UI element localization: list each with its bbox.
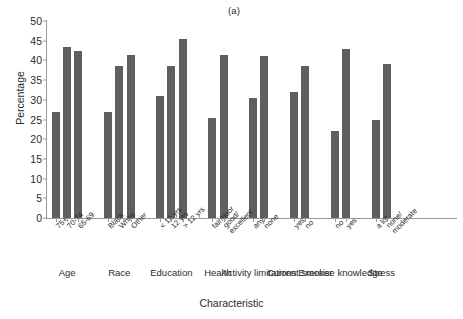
bar xyxy=(220,55,228,219)
y-axis-tick-label: 25 xyxy=(7,114,47,126)
bar xyxy=(290,92,298,218)
y-axis-tick-mark xyxy=(43,99,47,100)
x-axis-title: Characteristic xyxy=(0,297,463,309)
plot-area: 05101520253035404550 xyxy=(47,21,456,218)
bar xyxy=(179,39,187,218)
bar xyxy=(115,66,123,218)
y-axis-tick-mark xyxy=(43,178,47,179)
y-axis-tick-mark xyxy=(43,158,47,159)
bar xyxy=(127,55,135,219)
bar xyxy=(104,112,112,218)
x-axis-group-label: Stress xyxy=(337,268,427,279)
bar xyxy=(63,47,71,218)
y-axis-tick-mark xyxy=(43,139,47,140)
y-axis-tick-label: 50 xyxy=(7,15,47,27)
y-axis-tick-label: 20 xyxy=(7,133,47,145)
bar xyxy=(331,131,339,218)
bar xyxy=(52,112,60,218)
bar-chart-figure: (a) Percentage 05101520253035404550 Char… xyxy=(0,0,463,319)
y-axis-tick-label: 40 xyxy=(7,54,47,66)
y-axis-tick-label: 0 xyxy=(7,212,47,224)
y-axis-tick-label: 30 xyxy=(7,94,47,106)
y-axis-tick-mark xyxy=(43,60,47,61)
y-axis-tick-label: 10 xyxy=(7,173,47,185)
y-axis-tick-mark xyxy=(43,80,47,81)
bar xyxy=(372,120,380,219)
bar xyxy=(249,98,257,218)
bar xyxy=(167,66,175,218)
bar xyxy=(342,49,350,218)
y-axis-tick-label: 35 xyxy=(7,74,47,86)
panel-label: (a) xyxy=(228,5,240,16)
y-axis-tick-mark xyxy=(43,119,47,120)
y-axis-tick-label: 45 xyxy=(7,35,47,47)
bar xyxy=(208,118,216,218)
bar xyxy=(74,51,82,218)
bar xyxy=(260,56,268,218)
y-axis-tick-mark xyxy=(43,40,47,41)
bar xyxy=(301,66,309,218)
y-axis-tick-label: 5 xyxy=(7,192,47,204)
y-axis-tick-mark xyxy=(43,21,47,22)
y-axis-tick-label: 15 xyxy=(7,153,47,165)
bar xyxy=(156,96,164,218)
bar xyxy=(383,64,391,218)
y-axis-tick-mark xyxy=(43,218,47,219)
y-axis-tick-mark xyxy=(43,198,47,199)
